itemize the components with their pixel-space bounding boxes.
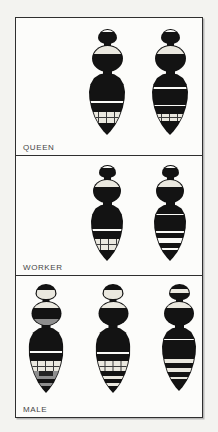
thorax-band-black xyxy=(99,308,127,325)
abdomen-band-black xyxy=(97,328,130,352)
abdomen-band-black xyxy=(153,121,187,134)
thorax-band-black xyxy=(156,54,185,72)
head-band-black xyxy=(99,32,116,43)
bee-group xyxy=(16,156,202,275)
thorax-band-black xyxy=(165,308,193,325)
male-right-bee-thorax xyxy=(164,301,194,326)
male-left-bee-head xyxy=(36,284,57,300)
queen-right-bee-thorax xyxy=(155,45,186,72)
abdomen-band-palegrid xyxy=(92,239,122,250)
head-band-black xyxy=(100,168,115,177)
abdomen-band-palegrid xyxy=(153,114,187,122)
thorax-band-gray xyxy=(32,319,60,325)
queen-left-bee-abdomen xyxy=(89,73,125,135)
male-right-bee-abdomen xyxy=(162,327,196,391)
abdomen-band-black xyxy=(30,328,63,351)
queen-right-bee-abdomen xyxy=(152,73,188,135)
worker-right-bee-abdomen xyxy=(154,204,186,261)
worker-left-bee-thorax xyxy=(93,179,121,203)
thorax-band-pale xyxy=(157,180,183,187)
worker-left-bee-head xyxy=(99,165,116,178)
queen-right-bee xyxy=(152,29,188,135)
thorax-band-black xyxy=(94,187,120,202)
worker-right-bee-head xyxy=(162,165,179,178)
thorax-band-pale xyxy=(94,180,120,187)
male-right-bee-head xyxy=(169,284,190,300)
abdomen-band-black xyxy=(97,354,130,361)
head-band-pale xyxy=(37,290,56,299)
abdomen-band-black xyxy=(153,106,187,113)
queen-left-bee xyxy=(89,29,125,135)
caste-label-male: MALE xyxy=(23,406,47,414)
male-right-bee xyxy=(162,284,196,391)
thorax-band-pale xyxy=(156,46,185,54)
abdomen-band-black xyxy=(163,340,195,359)
queen-right-bee-head xyxy=(161,29,180,44)
panel-worker: WORKER xyxy=(16,156,202,276)
queen-left-bee-head xyxy=(98,29,117,44)
male-middle-bee-thorax xyxy=(98,301,128,326)
abdomen-band-palegrid xyxy=(30,361,63,371)
worker-left-bee xyxy=(91,165,123,261)
abdomen-band-black xyxy=(30,386,63,392)
thorax-band-pale xyxy=(93,46,122,54)
worker-right-bee-thorax xyxy=(156,179,184,203)
male-middle-bee-head xyxy=(103,284,124,300)
abdomen-band-palegrid xyxy=(90,112,124,123)
abdomen-band-black xyxy=(92,231,122,239)
bee-group xyxy=(16,18,202,155)
panel-queen: QUEEN xyxy=(16,18,202,156)
abdomen-band-black xyxy=(153,89,187,105)
head-band-pale xyxy=(104,290,123,299)
abdomen-band-black xyxy=(92,205,122,229)
queen-left-bee-thorax xyxy=(92,45,123,72)
abdomen-band-palegrid xyxy=(97,361,130,371)
abdomen-band-black xyxy=(155,215,185,231)
panel-male: MALE xyxy=(16,276,202,417)
bee-group xyxy=(16,276,202,417)
worker-right-bee xyxy=(154,165,186,261)
abdomen-band-black xyxy=(90,103,124,111)
head-band-black xyxy=(163,168,178,177)
thorax-band-black xyxy=(157,187,183,202)
abdomen-band-black xyxy=(163,379,195,390)
male-middle-bee xyxy=(96,284,131,393)
thorax-band-black xyxy=(32,308,60,318)
abdomen-band-black xyxy=(97,386,130,392)
abdomen-band-black xyxy=(163,328,195,339)
abdomen-band-black xyxy=(30,353,63,361)
caste-label-queen: QUEEN xyxy=(23,144,54,152)
worker-left-bee-abdomen xyxy=(91,204,123,261)
bumblebee-caste-figure: QUEEN WORKER MALE xyxy=(15,17,203,418)
abdomen-band-black xyxy=(155,205,185,214)
abdomen-band-black xyxy=(153,74,187,87)
male-left-bee-abdomen xyxy=(29,327,64,393)
male-middle-bee-abdomen xyxy=(96,327,131,393)
abdomen-band-black xyxy=(155,250,185,260)
abdomen-band-black xyxy=(90,123,124,134)
male-left-bee xyxy=(29,284,64,393)
head-band-black xyxy=(162,32,179,43)
abdomen-band-black xyxy=(90,74,124,101)
male-left-bee-thorax xyxy=(31,301,61,326)
head-band-black xyxy=(170,293,189,299)
thorax-band-black xyxy=(93,54,122,72)
abdomen-band-black xyxy=(92,250,122,260)
caste-label-worker: WORKER xyxy=(23,264,63,272)
